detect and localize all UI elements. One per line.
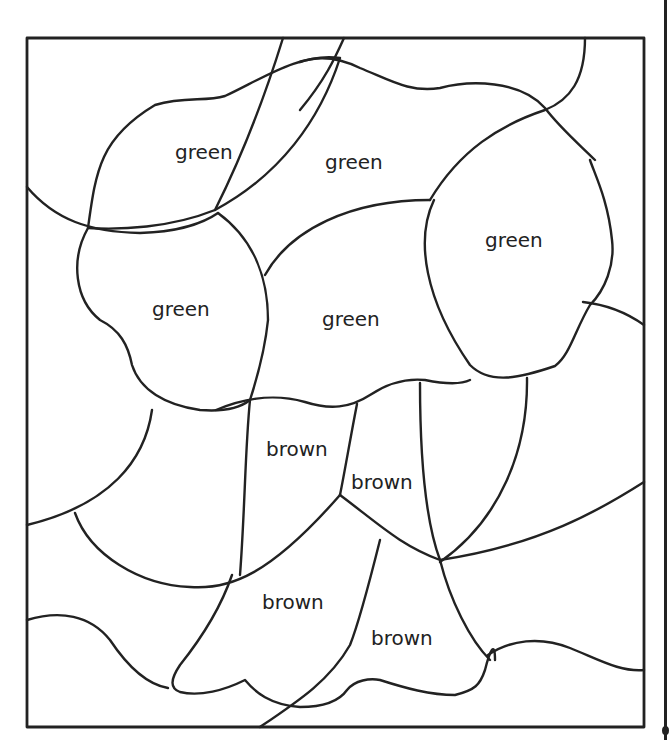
region-label: brown [262, 590, 324, 614]
region-label: green [485, 228, 543, 252]
page-edge-mark [662, 726, 669, 735]
region-label: green [152, 297, 210, 321]
region-label: green [175, 140, 233, 164]
region-label: brown [371, 626, 433, 650]
region-label: brown [351, 470, 413, 494]
region-label: green [322, 307, 380, 331]
region-label: green [325, 150, 383, 174]
region-outline-green-3 [425, 160, 613, 378]
page-edge-line [664, 0, 667, 740]
region-label: brown [266, 437, 328, 461]
frame [27, 38, 644, 727]
coloring-page-drawing [0, 0, 669, 752]
